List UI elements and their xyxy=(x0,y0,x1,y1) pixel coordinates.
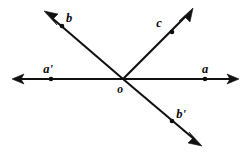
arrowhead-b xyxy=(44,11,58,25)
arrowhead-c xyxy=(179,8,193,22)
point-dot-b xyxy=(60,24,65,29)
geometry-figure: b c a' a o b' xyxy=(0,0,249,155)
point-dot-b-prime xyxy=(170,119,175,124)
label-o: o xyxy=(117,83,123,95)
geometry-canvas: b c a' a o b' xyxy=(0,0,249,155)
point-dot-c xyxy=(170,30,175,35)
point-dot-a xyxy=(203,77,208,82)
segment-c xyxy=(123,16,186,79)
label-c: c xyxy=(156,16,162,30)
label-a: a xyxy=(202,62,208,76)
arrowhead-b-prime xyxy=(188,132,202,146)
point-dot-a-prime xyxy=(49,77,54,82)
label-b-prime: b' xyxy=(176,107,186,121)
label-a-prime: a' xyxy=(43,62,53,76)
label-b: b xyxy=(66,11,72,25)
